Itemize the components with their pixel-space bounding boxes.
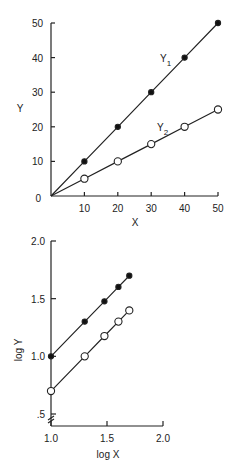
x-tick-label: 2.0 [156,433,170,444]
data-point [101,332,108,339]
data-point [81,353,88,360]
y-tick-label: .5 [37,409,46,420]
data-point [116,284,121,289]
log-log-chart: .51.01.52.01.01.52.0log Ylog X [0,0,227,473]
x-axis-label: log X [97,449,120,460]
x-tick-label: 1.0 [44,433,58,444]
data-point [82,319,87,324]
data-point [127,273,132,278]
y-tick-label: 2.0 [31,236,45,247]
data-point [126,307,133,314]
y-axis-label: log Y [13,338,24,361]
x-tick-label: 1.5 [100,433,114,444]
y-tick-label: 1.5 [31,294,45,305]
data-point [47,387,54,394]
data-point [115,318,122,325]
data-point [48,354,53,359]
y-tick-label: 1.0 [31,351,45,362]
data-point [102,299,107,304]
